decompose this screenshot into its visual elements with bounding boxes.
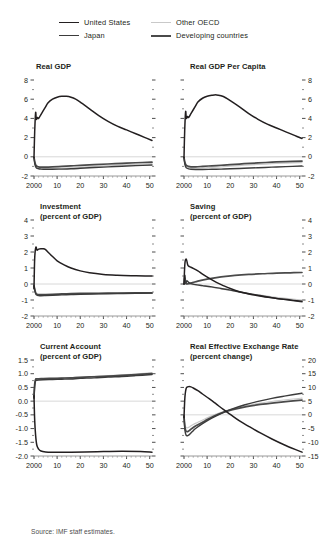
- svg-text:30: 30: [99, 461, 107, 470]
- svg-text:2000: 2000: [176, 321, 192, 330]
- legend-swatch-developing-countries-icon: [151, 35, 171, 37]
- panel-investment-subtitle-text: (percent of GDP): [40, 212, 102, 222]
- svg-text:1: 1: [308, 264, 312, 273]
- legend-row-2: Japan Developing countries: [59, 31, 277, 40]
- svg-text:0: 0: [24, 280, 28, 289]
- svg-text:-15: -15: [308, 452, 318, 461]
- panel-real-effective-exchange-rate: -15-10-50510152020001020304050 Real Effe…: [168, 338, 336, 478]
- svg-text:-1.0: -1.0: [16, 424, 28, 433]
- svg-text:10: 10: [53, 461, 61, 470]
- panel-row-2: -2-10123420001020304050 Investment (perc…: [0, 198, 336, 338]
- panel-row-3: -2.0-1.5-1.0-0.50.00.51.01.5200010203040…: [0, 338, 336, 478]
- svg-text:40: 40: [273, 321, 281, 330]
- svg-text:10: 10: [53, 321, 61, 330]
- figure-root: United States Other OECD Japan Developin…: [0, 0, 336, 550]
- svg-text:-2: -2: [22, 312, 28, 321]
- panel-investment-title: Investment (percent of GDP): [40, 202, 102, 221]
- svg-text:10: 10: [203, 181, 211, 190]
- panel-real-gdp: -20246820001020304050 Real GDP: [0, 58, 168, 198]
- panel-real-gdp-title-text: Real GDP: [36, 62, 71, 71]
- svg-text:50: 50: [296, 461, 304, 470]
- svg-text:10: 10: [308, 383, 316, 392]
- svg-text:40: 40: [273, 181, 281, 190]
- svg-text:1.5: 1.5: [18, 356, 28, 365]
- svg-text:20: 20: [226, 181, 234, 190]
- svg-text:10: 10: [53, 181, 61, 190]
- legend-item-developing-countries: Developing countries: [151, 31, 277, 40]
- panel-grid: -20246820001020304050 Real GDP -20246820…: [0, 58, 336, 478]
- panel-reer-subtitle-text: (percent change): [190, 352, 299, 362]
- svg-text:8: 8: [308, 76, 312, 85]
- svg-text:2000: 2000: [176, 461, 192, 470]
- svg-text:8: 8: [24, 76, 28, 85]
- svg-text:10: 10: [203, 321, 211, 330]
- svg-text:0: 0: [24, 152, 28, 161]
- panel-real-gdp-per-capita-title: Real GDP Per Capita: [190, 62, 266, 72]
- svg-text:6: 6: [24, 95, 28, 104]
- svg-text:30: 30: [249, 321, 257, 330]
- svg-text:2000: 2000: [176, 181, 192, 190]
- svg-text:40: 40: [123, 461, 131, 470]
- svg-text:-1.5: -1.5: [16, 438, 28, 447]
- svg-text:2: 2: [308, 133, 312, 142]
- svg-text:50: 50: [146, 321, 154, 330]
- svg-text:0: 0: [308, 152, 312, 161]
- svg-text:-0.5: -0.5: [16, 410, 28, 419]
- svg-text:30: 30: [99, 321, 107, 330]
- svg-text:20: 20: [226, 321, 234, 330]
- svg-text:3: 3: [308, 232, 312, 241]
- legend-swatch-united-states-icon: [59, 22, 79, 23]
- panel-saving-subtitle-text: (percent of GDP): [190, 212, 252, 222]
- panel-saving-title-text: Saving: [190, 202, 215, 211]
- svg-text:0: 0: [308, 280, 312, 289]
- svg-text:-5: -5: [308, 424, 314, 433]
- panel-current-account: -2.0-1.5-1.0-0.50.00.51.01.5200010203040…: [0, 338, 168, 478]
- svg-text:40: 40: [123, 321, 131, 330]
- legend-label-other-oecd: Other OECD: [176, 18, 219, 27]
- legend-label-japan: Japan: [84, 31, 105, 40]
- svg-text:30: 30: [249, 181, 257, 190]
- panel-real-gdp-per-capita-title-text: Real GDP Per Capita: [190, 62, 266, 71]
- svg-text:30: 30: [99, 181, 107, 190]
- svg-text:0.0: 0.0: [18, 397, 28, 406]
- svg-text:40: 40: [273, 461, 281, 470]
- svg-text:2000: 2000: [26, 181, 42, 190]
- svg-text:5: 5: [308, 397, 312, 406]
- legend-item-other-oecd: Other OECD: [151, 18, 277, 27]
- panel-saving: -2-10123420001020304050 Saving (percent …: [168, 198, 336, 338]
- panel-saving-title: Saving (percent of GDP): [190, 202, 252, 221]
- svg-text:-2: -2: [22, 172, 28, 181]
- svg-text:2000: 2000: [26, 461, 42, 470]
- svg-text:-10: -10: [308, 438, 318, 447]
- svg-text:10: 10: [203, 461, 211, 470]
- svg-text:-2.0: -2.0: [16, 452, 28, 461]
- svg-text:-1: -1: [308, 296, 314, 305]
- svg-text:20: 20: [76, 461, 84, 470]
- svg-text:50: 50: [146, 181, 154, 190]
- svg-text:4: 4: [308, 114, 312, 123]
- legend-swatch-other-oecd-icon: [151, 22, 171, 23]
- svg-text:-1: -1: [22, 296, 28, 305]
- svg-text:20: 20: [308, 356, 316, 365]
- svg-text:40: 40: [123, 181, 131, 190]
- panel-row-1: -20246820001020304050 Real GDP -20246820…: [0, 58, 336, 198]
- svg-text:50: 50: [296, 321, 304, 330]
- svg-text:20: 20: [76, 181, 84, 190]
- panel-current-account-subtitle-text: (percent of GDP): [40, 352, 102, 362]
- svg-text:2: 2: [24, 248, 28, 257]
- panel-investment: -2-10123420001020304050 Investment (perc…: [0, 198, 168, 338]
- legend-item-japan: Japan: [59, 31, 151, 40]
- svg-text:6: 6: [308, 95, 312, 104]
- svg-text:0.5: 0.5: [18, 383, 28, 392]
- svg-text:20: 20: [226, 461, 234, 470]
- svg-text:4: 4: [24, 114, 28, 123]
- svg-text:1: 1: [24, 264, 28, 273]
- svg-text:2: 2: [24, 133, 28, 142]
- legend-label-developing-countries: Developing countries: [176, 31, 248, 40]
- panel-real-gdp-plot: -20246820001020304050: [0, 58, 168, 198]
- svg-text:2: 2: [308, 248, 312, 257]
- chart-legend: United States Other OECD Japan Developin…: [0, 18, 336, 40]
- legend-swatch-japan-icon: [59, 35, 79, 36]
- legend-label-united-states: United States: [84, 18, 130, 27]
- svg-text:4: 4: [24, 216, 28, 225]
